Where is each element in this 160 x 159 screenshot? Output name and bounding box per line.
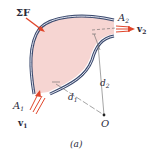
moment-arm-d2-label: d2	[100, 79, 110, 89]
origin-label: O	[101, 119, 109, 129]
figure-caption: (a)	[70, 140, 82, 149]
origin-point	[103, 114, 106, 117]
inlet-velocity-label: v1	[18, 119, 27, 129]
inlet-area-label: A1	[13, 101, 24, 112]
outlet-area-label: A2	[118, 13, 129, 24]
sum-force-label: ΣF	[16, 8, 30, 18]
moment-arm-d1-label: d1	[68, 93, 78, 103]
inlet-velocity-arrows	[30, 94, 45, 114]
control-volume-diagram	[0, 0, 160, 159]
outlet-velocity-label: v2	[137, 25, 146, 35]
moment-arm-d1-line	[56, 84, 104, 115]
